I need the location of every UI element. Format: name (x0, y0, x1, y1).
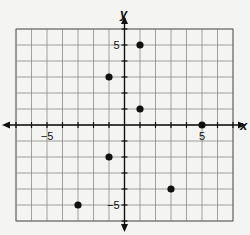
arrow-down-icon (121, 224, 128, 232)
y-tick-label: 5 (113, 39, 119, 51)
arrow-left-icon (2, 122, 10, 129)
data-point (105, 153, 112, 160)
y-tick-label: −5 (107, 199, 120, 211)
x-tick-label: −5 (41, 130, 54, 142)
coordinate-plane: −555−5 x y (0, 0, 250, 235)
data-point (136, 105, 143, 112)
data-point (74, 201, 81, 208)
x-axis-label: x (239, 118, 248, 133)
y-axis-label: y (119, 6, 128, 21)
x-tick-label: 5 (199, 130, 205, 142)
axes (2, 16, 246, 232)
data-point (198, 121, 205, 128)
data-point (136, 41, 143, 48)
data-point (167, 185, 174, 192)
data-point (105, 73, 112, 80)
